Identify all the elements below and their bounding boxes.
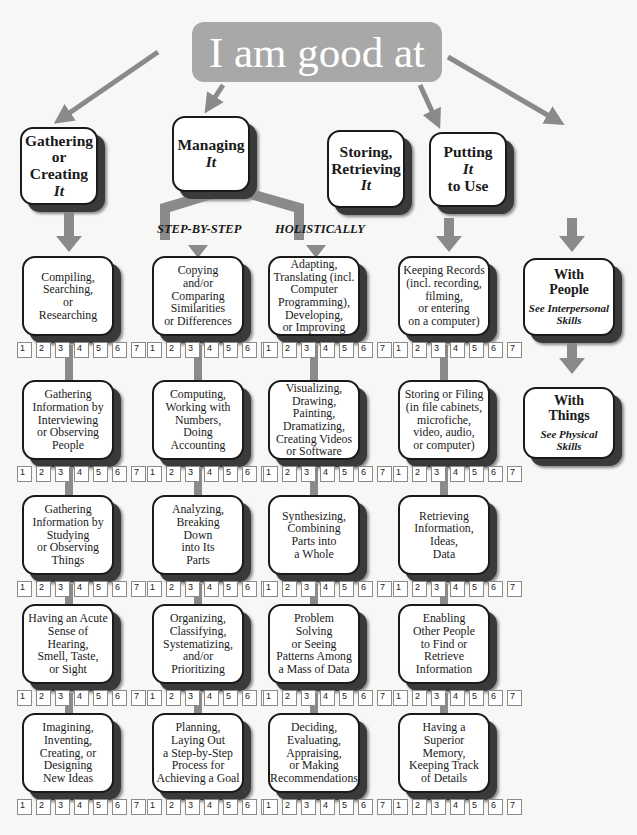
rating-box-1[interactable]: 1: [263, 799, 278, 815]
rating-box-7[interactable]: 7: [507, 466, 522, 482]
rating-box-2[interactable]: 2: [282, 342, 297, 358]
rating-box-6[interactable]: 6: [358, 466, 373, 482]
rating-box-6[interactable]: 6: [358, 581, 373, 597]
rating-box-1[interactable]: 1: [263, 690, 278, 706]
rating-box-3[interactable]: 3: [431, 690, 446, 706]
rating-box-5[interactable]: 5: [93, 799, 108, 815]
rating-box-6[interactable]: 6: [488, 342, 503, 358]
rating-box-6[interactable]: 6: [242, 342, 257, 358]
rating-box-5[interactable]: 5: [223, 581, 238, 597]
rating-box-2[interactable]: 2: [412, 342, 427, 358]
rating-box-4[interactable]: 4: [320, 690, 335, 706]
rating-box-1[interactable]: 1: [393, 581, 408, 597]
rating-box-1[interactable]: 1: [263, 466, 278, 482]
rating-box-7[interactable]: 7: [377, 581, 392, 597]
rating-box-5[interactable]: 5: [93, 466, 108, 482]
rating-box-3[interactable]: 3: [185, 581, 200, 597]
rating-box-5[interactable]: 5: [469, 799, 484, 815]
rating-box-1[interactable]: 1: [393, 690, 408, 706]
rating-box-3[interactable]: 3: [301, 799, 316, 815]
rating-box-5[interactable]: 5: [223, 342, 238, 358]
rating-box-6[interactable]: 6: [242, 466, 257, 482]
rating-box-5[interactable]: 5: [223, 466, 238, 482]
rating-box-2[interactable]: 2: [412, 799, 427, 815]
rating-box-4[interactable]: 4: [450, 799, 465, 815]
rating-box-5[interactable]: 5: [339, 342, 354, 358]
rating-box-5[interactable]: 5: [93, 342, 108, 358]
rating-box-4[interactable]: 4: [320, 581, 335, 597]
rating-box-2[interactable]: 2: [166, 581, 181, 597]
rating-box-1[interactable]: 1: [393, 799, 408, 815]
rating-box-1[interactable]: 1: [147, 466, 162, 482]
rating-box-1[interactable]: 1: [17, 581, 32, 597]
rating-box-1[interactable]: 1: [17, 799, 32, 815]
rating-box-1[interactable]: 1: [147, 342, 162, 358]
rating-box-7[interactable]: 7: [507, 690, 522, 706]
rating-box-4[interactable]: 4: [204, 342, 219, 358]
rating-box-2[interactable]: 2: [166, 799, 181, 815]
rating-box-1[interactable]: 1: [393, 466, 408, 482]
rating-box-4[interactable]: 4: [74, 799, 89, 815]
rating-box-2[interactable]: 2: [36, 581, 51, 597]
rating-box-6[interactable]: 6: [358, 690, 373, 706]
rating-box-1[interactable]: 1: [263, 581, 278, 597]
rating-box-6[interactable]: 6: [112, 466, 127, 482]
rating-box-4[interactable]: 4: [450, 342, 465, 358]
rating-box-3[interactable]: 3: [301, 466, 316, 482]
rating-box-3[interactable]: 3: [185, 342, 200, 358]
rating-box-7[interactable]: 7: [377, 799, 392, 815]
rating-box-4[interactable]: 4: [74, 342, 89, 358]
rating-box-6[interactable]: 6: [358, 799, 373, 815]
rating-box-6[interactable]: 6: [112, 581, 127, 597]
rating-box-5[interactable]: 5: [469, 466, 484, 482]
rating-box-5[interactable]: 5: [339, 690, 354, 706]
rating-box-4[interactable]: 4: [204, 466, 219, 482]
rating-box-7[interactable]: 7: [377, 690, 392, 706]
rating-box-7[interactable]: 7: [507, 799, 522, 815]
rating-box-4[interactable]: 4: [204, 799, 219, 815]
rating-box-7[interactable]: 7: [131, 690, 146, 706]
rating-box-4[interactable]: 4: [74, 690, 89, 706]
rating-box-6[interactable]: 6: [242, 799, 257, 815]
rating-box-1[interactable]: 1: [393, 342, 408, 358]
rating-box-3[interactable]: 3: [431, 466, 446, 482]
rating-box-2[interactable]: 2: [166, 466, 181, 482]
rating-box-6[interactable]: 6: [112, 342, 127, 358]
rating-box-2[interactable]: 2: [36, 466, 51, 482]
rating-box-3[interactable]: 3: [185, 466, 200, 482]
rating-box-3[interactable]: 3: [55, 799, 70, 815]
rating-box-7[interactable]: 7: [507, 342, 522, 358]
rating-box-4[interactable]: 4: [450, 690, 465, 706]
rating-box-6[interactable]: 6: [112, 690, 127, 706]
rating-box-2[interactable]: 2: [282, 581, 297, 597]
rating-box-5[interactable]: 5: [223, 799, 238, 815]
rating-box-5[interactable]: 5: [93, 581, 108, 597]
rating-box-5[interactable]: 5: [469, 690, 484, 706]
rating-box-6[interactable]: 6: [242, 690, 257, 706]
rating-box-5[interactable]: 5: [339, 466, 354, 482]
rating-box-7[interactable]: 7: [131, 342, 146, 358]
rating-box-1[interactable]: 1: [147, 581, 162, 597]
rating-box-2[interactable]: 2: [282, 690, 297, 706]
rating-box-2[interactable]: 2: [166, 690, 181, 706]
rating-box-2[interactable]: 2: [36, 342, 51, 358]
rating-box-2[interactable]: 2: [412, 690, 427, 706]
rating-box-3[interactable]: 3: [55, 581, 70, 597]
rating-box-4[interactable]: 4: [204, 690, 219, 706]
rating-box-1[interactable]: 1: [147, 799, 162, 815]
rating-box-5[interactable]: 5: [469, 342, 484, 358]
rating-box-5[interactable]: 5: [339, 799, 354, 815]
rating-box-5[interactable]: 5: [223, 690, 238, 706]
rating-box-2[interactable]: 2: [282, 799, 297, 815]
rating-box-6[interactable]: 6: [112, 799, 127, 815]
rating-box-3[interactable]: 3: [301, 581, 316, 597]
rating-box-1[interactable]: 1: [147, 690, 162, 706]
rating-box-2[interactable]: 2: [36, 799, 51, 815]
rating-box-3[interactable]: 3: [301, 342, 316, 358]
rating-box-5[interactable]: 5: [339, 581, 354, 597]
rating-box-1[interactable]: 1: [263, 342, 278, 358]
rating-box-3[interactable]: 3: [55, 690, 70, 706]
rating-box-3[interactable]: 3: [55, 466, 70, 482]
rating-box-4[interactable]: 4: [320, 799, 335, 815]
rating-box-2[interactable]: 2: [282, 466, 297, 482]
